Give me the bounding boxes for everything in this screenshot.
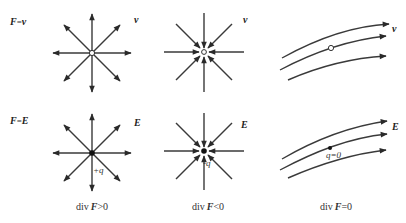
arrow-icon [92,125,120,153]
flow-line-icon [282,24,389,58]
charge-dot-icon [201,148,207,154]
row-label-top: F=v [9,16,27,27]
arrow-icon [208,24,232,48]
caption-div-positive: divF>0 [76,201,108,212]
open-circle-icon [328,45,333,50]
arrow-icon [92,25,120,53]
charge-label: +q [93,165,104,175]
field-label: E [391,121,399,132]
arrow-icon [176,155,200,179]
divergence-diagram: F=v F=E v v v [0,0,406,223]
arrow-icon [92,53,120,81]
panel-uniform-v: v [280,23,397,80]
panel-sink-E: E -q [164,113,248,190]
arrow-icon [64,25,92,53]
arrow-icon [176,123,200,147]
caption-div-zero: divF=0 [320,201,352,212]
charge-dot-icon [89,150,95,156]
field-label: E [133,117,141,128]
panel-source-E: E +q [53,114,141,191]
caption-div-negative: divF<0 [192,201,224,212]
field-label: v [243,14,248,25]
arrow-icon [64,125,92,153]
arrow-icon [208,123,232,147]
panel-source-v: v [53,14,139,92]
open-circle-icon [89,50,94,55]
arrow-icon [208,56,232,80]
field-label: E [240,119,248,130]
arrow-icon [176,56,200,80]
field-label: v [392,23,397,34]
row-label-bottom: F=E [9,115,29,126]
arrow-icon [64,53,92,81]
arrow-icon [64,153,92,181]
field-label: v [134,14,139,25]
arrow-icon [208,155,232,179]
panel-sink-v: v [164,13,248,92]
open-circle-icon [202,50,207,55]
arrow-icon [176,24,200,48]
charge-label: q=0 [326,150,342,160]
panel-uniform-E: q=0 E [280,121,399,178]
charge-label: -q [203,158,211,168]
